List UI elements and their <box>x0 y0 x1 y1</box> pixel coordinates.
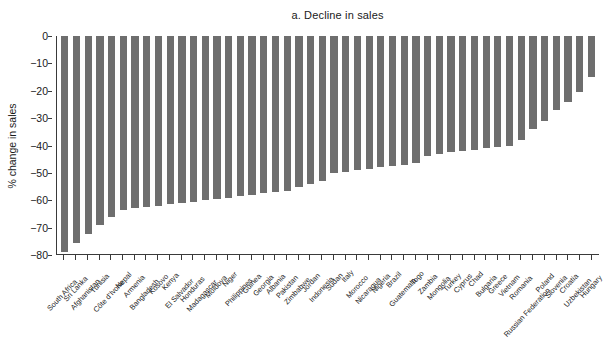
x-tick-mark <box>403 255 404 260</box>
x-label-slot: Sudan <box>328 261 340 346</box>
x-tick-slot <box>398 255 410 260</box>
y-tick-mark <box>48 63 52 64</box>
y-tick-mark <box>48 91 52 92</box>
x-tick-mark <box>122 255 123 260</box>
x-tick-mark <box>462 255 463 260</box>
x-tick-slot <box>70 255 82 260</box>
bar[interactable] <box>120 36 127 210</box>
bar[interactable] <box>284 36 291 191</box>
x-label-slot: Albania <box>269 261 281 346</box>
x-tick-slot <box>374 255 386 260</box>
x-tick-slot <box>292 255 304 260</box>
x-tick-slot <box>410 255 422 260</box>
bar[interactable] <box>248 36 255 195</box>
bar[interactable] <box>213 36 220 199</box>
x-tick-slot <box>210 255 222 260</box>
bar-slot <box>363 36 375 254</box>
y-tick-mark <box>48 255 52 256</box>
bar-slot <box>527 36 539 254</box>
y-axis-label: % change in sales <box>4 36 20 256</box>
bar[interactable] <box>401 36 408 165</box>
x-tick-mark <box>251 255 252 260</box>
y-tick-mark <box>48 146 52 147</box>
bar[interactable] <box>330 36 337 173</box>
bar[interactable] <box>260 36 267 193</box>
bar[interactable] <box>295 36 302 187</box>
bar[interactable] <box>424 36 431 156</box>
x-tick-mark <box>181 255 182 260</box>
bar[interactable] <box>272 36 279 192</box>
x-tick-mark <box>110 255 111 260</box>
bar[interactable] <box>96 36 103 225</box>
bar[interactable] <box>471 36 478 150</box>
x-label-slot: Bulgaria <box>480 261 492 346</box>
bar-slot <box>328 36 340 254</box>
bar[interactable] <box>389 36 396 166</box>
bar-slot <box>59 36 71 254</box>
bar[interactable] <box>564 36 571 102</box>
x-label-slot: Togo <box>410 261 422 346</box>
bar-slot <box>118 36 130 254</box>
bar-slot <box>94 36 106 254</box>
bar-slot <box>551 36 563 254</box>
x-tick-mark <box>75 255 76 260</box>
bar-slot <box>340 36 352 254</box>
x-tick-slot <box>187 255 199 260</box>
bar[interactable] <box>155 36 162 206</box>
bar[interactable] <box>342 36 349 172</box>
bar-slot <box>293 36 305 254</box>
bar[interactable] <box>190 36 197 202</box>
bar[interactable] <box>447 36 454 152</box>
bar[interactable] <box>588 36 595 77</box>
x-tick-mark <box>227 255 228 260</box>
bar-slot <box>562 36 574 254</box>
bar[interactable] <box>202 36 209 200</box>
bar[interactable] <box>518 36 525 140</box>
bar[interactable] <box>167 36 174 204</box>
bar[interactable] <box>436 36 443 154</box>
bar[interactable] <box>412 36 419 163</box>
bar[interactable] <box>576 36 583 92</box>
bar-slot <box>574 36 586 254</box>
bar[interactable] <box>553 36 560 110</box>
x-tick-mark <box>567 255 568 260</box>
bar-slot <box>71 36 83 254</box>
x-label-slot: Hungary <box>585 261 597 346</box>
x-tick-slot <box>222 255 234 260</box>
bar[interactable] <box>143 36 150 207</box>
bar[interactable] <box>108 36 115 217</box>
bar[interactable] <box>73 36 80 243</box>
bar[interactable] <box>366 36 373 169</box>
bar[interactable] <box>237 36 244 196</box>
x-label-slot: Indonesia <box>316 261 328 346</box>
bar[interactable] <box>319 36 326 181</box>
bar[interactable] <box>85 36 92 234</box>
bar-slot <box>469 36 481 254</box>
bar-slot <box>480 36 492 254</box>
x-label-slot: Slovenia <box>550 261 562 346</box>
x-label-slot: Chad <box>468 261 480 346</box>
x-tick-slot <box>574 255 586 260</box>
bar[interactable] <box>506 36 513 146</box>
x-tick-slot <box>128 255 140 260</box>
bar[interactable] <box>178 36 185 203</box>
bar[interactable] <box>131 36 138 208</box>
bar[interactable] <box>225 36 232 198</box>
bar[interactable] <box>307 36 314 184</box>
x-tick-slot <box>175 255 187 260</box>
x-tick-mark <box>99 255 100 260</box>
bar[interactable] <box>459 36 466 151</box>
x-tick-slot <box>562 255 574 260</box>
bar-series <box>57 36 599 254</box>
x-tick-slot <box>328 255 340 260</box>
bar[interactable] <box>494 36 501 147</box>
bar[interactable] <box>354 36 361 170</box>
x-tick-slot <box>480 255 492 260</box>
bar[interactable] <box>377 36 384 167</box>
bar[interactable] <box>483 36 490 148</box>
bar[interactable] <box>541 36 548 121</box>
x-tick-slot <box>105 255 117 260</box>
bar[interactable] <box>61 36 68 252</box>
bar[interactable] <box>529 36 536 129</box>
x-tick-mark <box>579 255 580 260</box>
